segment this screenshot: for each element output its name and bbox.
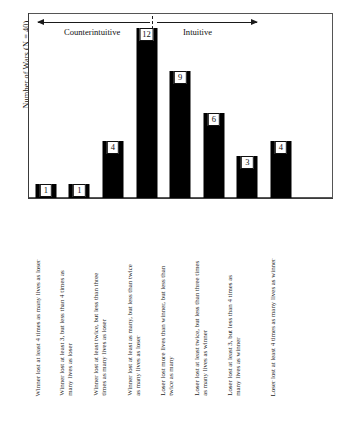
bar-slot-1: 1 [63,14,97,198]
bar-4 [170,71,191,198]
category-label-6: Loser lost at least 3, but less than 4 t… [231,200,265,396]
bar-value-1: 1 [73,184,85,197]
category-label-4: Loser lost more lives than winner, but l… [163,200,197,396]
bar-slot-4: 9 [163,14,197,198]
bar-value-2: 4 [107,141,119,154]
bar-series: 1 1 4 12 9 6 3 4 [29,14,332,198]
bar-value-7: 4 [275,141,287,154]
bar-value-4: 9 [174,71,186,84]
category-label-1: Winner lost at least 3, but less than 4 … [63,200,97,396]
x-axis-line [28,198,333,199]
bar-value-3: 12 [139,28,154,41]
x-axis-category-labels: Winner lost at least 4 times as many liv… [29,200,332,396]
bar-slot-2: 4 [96,14,130,198]
bar-value-0: 1 [40,184,52,197]
bar-value-6: 3 [241,156,253,169]
category-label-7: Loser lost at least 4 times as many live… [264,200,298,396]
bar-3 [136,28,157,198]
bar-slot-0: 1 [29,14,63,198]
bar-slot-6: 3 [231,14,265,198]
category-label-2: Winner lost at least twice, but less tha… [96,200,130,396]
bar-value-5: 6 [208,113,220,126]
bar-slot-7: 4 [264,14,298,198]
bar-slot-3: 12 [130,14,164,198]
bar-chart-figure: Number of Wars (N = 40) Counterintuitive… [0,0,341,425]
bar-slot-5: 6 [197,14,231,198]
